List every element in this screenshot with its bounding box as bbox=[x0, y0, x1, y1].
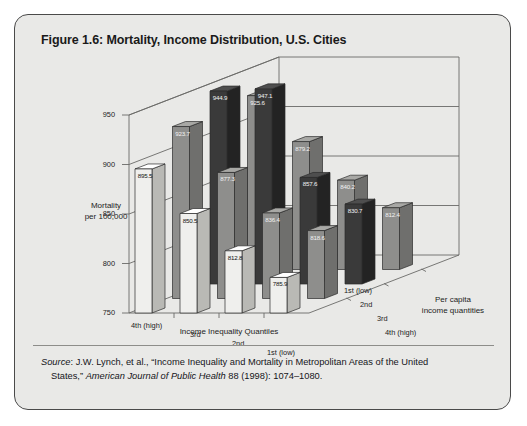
bar-value-label: 877.3 bbox=[219, 175, 236, 182]
figure-title: Figure 1.6: Mortality, Income Distributi… bbox=[41, 33, 346, 47]
bar-value-label: 947.1 bbox=[257, 92, 274, 99]
bar-value-label: 895.5 bbox=[137, 172, 154, 179]
source-line2-b: 88 (1998): 1074–1080. bbox=[226, 371, 323, 381]
bar-value-label: 840.2 bbox=[339, 183, 356, 190]
bar-value-label: 836.4 bbox=[264, 216, 281, 223]
source-journal: American Journal of Public Health bbox=[86, 371, 226, 381]
bar-value-label: 850.5 bbox=[182, 217, 199, 224]
source-line2-a: States,” bbox=[51, 371, 86, 381]
bar-value-label: 857.6 bbox=[302, 180, 319, 187]
source-label: Source bbox=[41, 357, 70, 367]
bar-value-label: 925.6 bbox=[249, 99, 266, 106]
bar-value-label: 785.9 bbox=[272, 280, 289, 287]
bar-value-label: 944.9 bbox=[212, 94, 229, 101]
bar-value-label: 818.6 bbox=[309, 234, 326, 241]
bar bbox=[180, 209, 210, 313]
bar-value-label: 812.8 bbox=[227, 254, 244, 261]
three-d-bar-chart: 950 900 850 800 750 Mortality per 100,00… bbox=[33, 55, 494, 343]
figure-panel: Figure 1.6: Mortality, Income Distributi… bbox=[14, 14, 511, 410]
bar bbox=[270, 272, 300, 313]
bar-value-label: 830.7 bbox=[347, 207, 364, 214]
bar-value-label: 812.4 bbox=[384, 211, 401, 218]
footer-divider bbox=[33, 345, 494, 346]
source-line2: States,” American Journal of Public Heal… bbox=[41, 370, 493, 384]
bar bbox=[135, 164, 165, 313]
source-line1: : J.W. Lynch, et al., “Income Inequality… bbox=[70, 357, 428, 367]
bar-value-label: 879.2 bbox=[294, 145, 311, 152]
source-citation: Source: J.W. Lynch, et al., “Income Ineq… bbox=[41, 356, 493, 383]
bar-value-label: 923.7 bbox=[174, 130, 191, 137]
